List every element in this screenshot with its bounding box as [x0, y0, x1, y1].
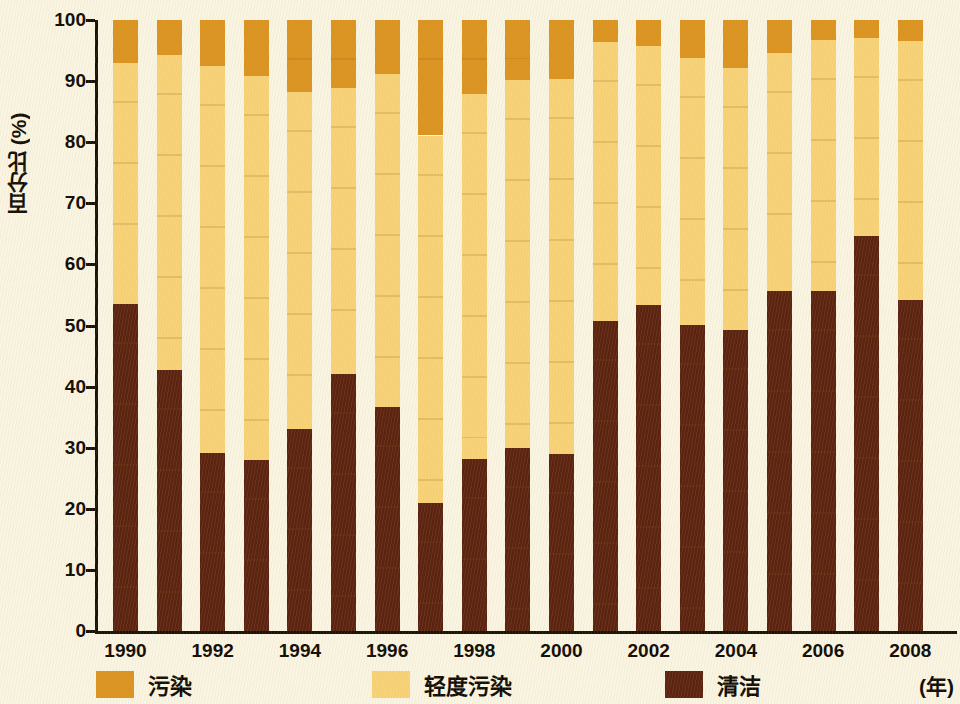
bar-segment-clean	[636, 305, 661, 631]
y-axis-tick-label: 50	[40, 315, 86, 337]
y-axis-tick-label: 70	[40, 192, 86, 214]
bar-1990	[113, 20, 138, 631]
bar-segment-light-pollution	[593, 42, 618, 321]
bar-2006	[811, 20, 836, 631]
legend-item-light-pollution[interactable]: 轻度污染	[372, 668, 512, 700]
y-axis-tick-mark	[86, 569, 95, 572]
y-axis-tick-label: 30	[40, 437, 86, 459]
bar-segment-pollution	[418, 20, 443, 135]
y-axis-tick-mark	[86, 19, 95, 22]
y-axis-tick-label: 40	[40, 376, 86, 398]
bar-segment-pollution	[854, 20, 879, 38]
x-axis-tick-label-2004: 2004	[701, 640, 771, 662]
bar-2001	[593, 20, 618, 631]
bar-segment-light-pollution	[157, 55, 182, 369]
bar-segment-light-pollution	[287, 92, 312, 429]
bar-2007	[854, 20, 879, 631]
legend-item-clean[interactable]: 清洁	[665, 668, 761, 700]
bar-segment-pollution	[636, 20, 661, 46]
y-axis-tick-mark	[86, 263, 95, 266]
x-axis-tick-label-1990: 1990	[91, 640, 161, 662]
bar-segment-pollution	[244, 20, 269, 76]
bar-2002	[636, 20, 661, 631]
legend-label: 轻度污染	[424, 668, 512, 700]
bar-segment-pollution	[680, 20, 705, 58]
bar-segment-light-pollution	[723, 68, 748, 330]
y-axis-tick-mark	[86, 508, 95, 511]
bar-segment-clean	[898, 300, 923, 631]
x-axis-tick-label-2002: 2002	[614, 640, 684, 662]
bar-segment-clean	[811, 291, 836, 631]
legend-item-pollution[interactable]: 污染	[96, 668, 192, 700]
bar-segment-clean	[593, 321, 618, 631]
legend-label: 清洁	[717, 668, 761, 700]
bar-segment-light-pollution	[200, 66, 225, 453]
bar-segment-pollution	[811, 20, 836, 40]
y-axis-tick-label: 20	[40, 498, 86, 520]
bar-segment-pollution	[375, 20, 400, 74]
bar-segment-clean	[287, 429, 312, 631]
bar-segment-clean	[331, 374, 356, 631]
legend-swatch-icon	[665, 671, 703, 698]
y-axis-tick-label: 10	[40, 559, 86, 581]
bar-1991	[157, 20, 182, 631]
bar-segment-pollution	[157, 20, 182, 55]
bar-segment-pollution	[898, 20, 923, 41]
bar-segment-light-pollution	[767, 53, 792, 291]
bar-segment-light-pollution	[636, 46, 661, 305]
bar-segment-pollution	[113, 20, 138, 63]
chart-legend: (年) 污染轻度污染清洁	[0, 668, 960, 704]
x-axis-line	[95, 631, 957, 634]
legend-swatch-icon	[372, 671, 410, 698]
bar-segment-clean	[505, 448, 530, 631]
bar-segment-light-pollution	[811, 40, 836, 291]
bar-1997	[418, 20, 443, 631]
bar-segment-clean	[462, 459, 487, 631]
bar-1999	[505, 20, 530, 631]
bar-segment-pollution	[331, 20, 356, 88]
bar-1996	[375, 20, 400, 631]
y-axis-tick-label: 100	[40, 9, 86, 31]
bar-segment-clean	[375, 407, 400, 631]
bar-segment-light-pollution	[854, 38, 879, 236]
legend-swatch-icon	[96, 671, 134, 698]
x-axis-tick-label-2000: 2000	[527, 640, 597, 662]
bar-1992	[200, 20, 225, 631]
y-axis-tick-mark	[86, 447, 95, 450]
bar-segment-clean	[723, 330, 748, 631]
bar-segment-light-pollution	[549, 79, 574, 454]
bar-segment-light-pollution	[505, 80, 530, 448]
bar-segment-clean	[549, 454, 574, 631]
legend-label: 污染	[148, 668, 192, 700]
bar-2004	[723, 20, 748, 631]
bar-segment-pollution	[549, 20, 574, 79]
bar-segment-pollution	[462, 20, 487, 94]
bar-segment-light-pollution	[418, 136, 443, 503]
bar-1993	[244, 20, 269, 631]
bar-segment-light-pollution	[898, 41, 923, 299]
bar-segment-pollution	[287, 20, 312, 91]
bar-segment-light-pollution	[680, 58, 705, 325]
bar-segment-clean	[854, 236, 879, 631]
x-axis-unit-label: (年)	[919, 670, 954, 700]
y-axis-tick-mark	[86, 141, 95, 144]
x-axis-tick-label-2008: 2008	[875, 640, 945, 662]
bar-segment-pollution	[200, 20, 225, 66]
bar-segment-clean	[113, 304, 138, 631]
y-axis-tick-label: 90	[40, 70, 86, 92]
bar-segment-pollution	[767, 20, 792, 53]
x-axis-tick-label-1992: 1992	[178, 640, 248, 662]
x-axis-tick-label-1996: 1996	[352, 640, 422, 662]
plot-area	[98, 20, 957, 631]
bar-2000	[549, 20, 574, 631]
bar-segment-light-pollution	[331, 88, 356, 373]
bar-segment-pollution	[723, 20, 748, 68]
bar-2005	[767, 20, 792, 631]
bar-segment-clean	[680, 325, 705, 631]
bar-1994	[287, 20, 312, 631]
bar-1995	[331, 20, 356, 631]
bar-segment-clean	[200, 453, 225, 631]
y-axis-tick-label: 0	[40, 620, 86, 642]
bar-segment-pollution	[593, 20, 618, 42]
chart-figure: 百分比 (%) 0102030405060708090100 199019921…	[0, 0, 960, 704]
